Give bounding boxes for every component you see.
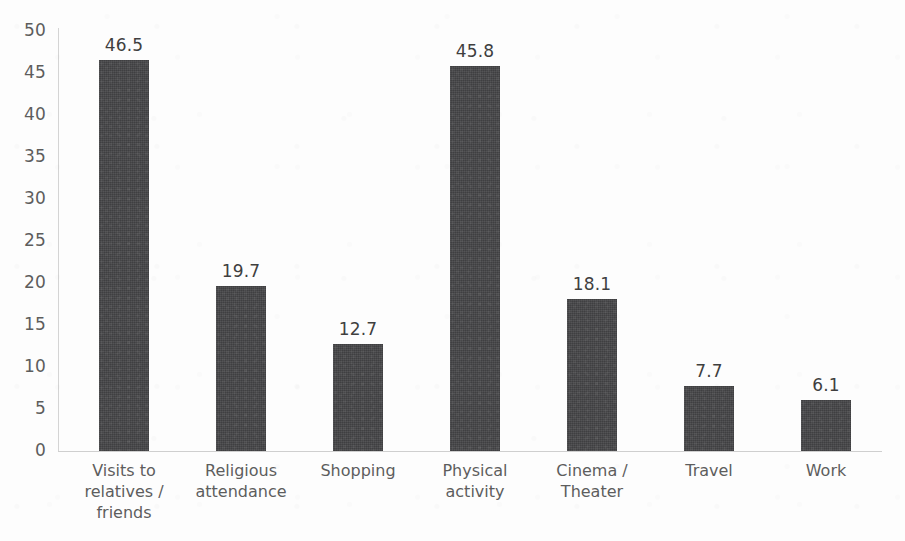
bar [684, 386, 734, 451]
bar-value-label: 6.1 [779, 376, 873, 394]
bar-value-label: 45.8 [428, 42, 522, 60]
bar [801, 400, 851, 451]
y-axis-tick-labels: 50454035302520151050 [0, 0, 46, 541]
bar-value-label: 7.7 [662, 362, 756, 380]
x-axis-category-label: Shopping [300, 460, 416, 481]
plot-area: 46.519.712.745.818.17.76.1 [58, 31, 880, 451]
y-tick-label-35: 35 [6, 148, 46, 165]
y-tick-label-45: 45 [6, 64, 46, 81]
x-axis-category-label: Travel [651, 460, 767, 481]
y-tick-label-5: 5 [6, 400, 46, 417]
y-tick-label-50: 50 [6, 22, 46, 39]
x-axis-category-label: Physical activity [417, 460, 533, 502]
x-axis-line [58, 451, 882, 452]
y-tick-label-10: 10 [6, 358, 46, 375]
y-tick-label-30: 30 [6, 190, 46, 207]
bar-chart: 50454035302520151050 46.519.712.745.818.… [0, 0, 905, 541]
x-axis-category-label: Visits to relatives / friends [66, 460, 182, 523]
y-tick-label-15: 15 [6, 316, 46, 333]
bar [567, 299, 617, 451]
bar-value-label: 46.5 [77, 36, 171, 54]
y-tick-label-0: 0 [6, 442, 46, 459]
y-tick-label-25: 25 [6, 232, 46, 249]
x-axis-category-label: Religious attendance [183, 460, 299, 502]
bar [99, 60, 149, 451]
x-axis-category-label: Cinema / Theater [534, 460, 650, 502]
bar [216, 286, 266, 451]
y-tick-label-20: 20 [6, 274, 46, 291]
bar-value-label: 19.7 [194, 262, 288, 280]
bar [333, 344, 383, 451]
bar-value-label: 12.7 [311, 320, 405, 338]
y-tick-label-40: 40 [6, 106, 46, 123]
bar [450, 66, 500, 451]
x-axis-category-label: Work [768, 460, 884, 481]
bar-value-label: 18.1 [545, 275, 639, 293]
